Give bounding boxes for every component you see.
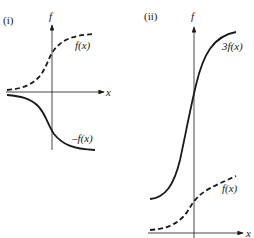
panel-ii: (ii) f x 3f(x) f(x) xyxy=(144,10,251,238)
panel-i-label: (i) xyxy=(3,14,14,27)
panel-i-label-neg-f: –f(x) xyxy=(71,132,93,145)
panel-ii-x-label: x xyxy=(245,227,251,238)
panel-i-label-f: f(x) xyxy=(75,39,91,52)
panel-ii-y-label: f xyxy=(191,10,196,22)
panel-ii-curve-3f xyxy=(150,32,236,199)
panel-ii-label: (ii) xyxy=(144,10,158,23)
panel-ii-label-f: f(x) xyxy=(222,182,238,195)
panel-ii-label-3f: 3f(x) xyxy=(221,40,243,53)
panel-i: (i) f x f(x) –f(x) xyxy=(3,10,111,150)
diagram: (i) f x f(x) –f(x) (ii) f x 3f(x) f(x) xyxy=(0,0,254,238)
panel-i-x-label: x xyxy=(105,86,111,98)
panel-i-y-label: f xyxy=(49,10,54,22)
